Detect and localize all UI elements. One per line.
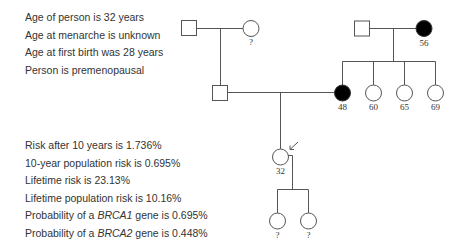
daughter-2-age: ? [307,230,311,240]
maternal-grandfather-square [355,21,370,36]
aunt-2-circle [397,85,413,101]
mother-age: 48 [338,102,348,112]
aunt-1-circle [366,85,382,101]
paternal-grandmother-age: ? [249,37,253,47]
proband-circle [273,149,289,165]
pedigree-chart: ? 56 48 60 65 69 32 ? ? [0,0,461,249]
aunt-2-age: 65 [400,102,410,112]
maternal-grandmother-age: 56 [420,38,430,48]
daughter-2-circle [301,213,317,229]
maternal-grandmother-affected-circle [416,21,432,37]
daughter-1-circle [270,213,286,229]
aunt-3-age: 69 [431,102,441,112]
aunt-1-age: 60 [369,102,379,112]
paternal-grandfather-square [182,21,197,36]
daughter-1-age: ? [276,230,280,240]
father-square [213,86,228,101]
aunt-3-circle [428,85,444,101]
paternal-grandmother-circle [243,21,259,37]
mother-affected-circle [335,85,351,101]
proband-age: 32 [276,166,285,176]
pedigree-lines [197,29,436,214]
proband-arrow-icon [290,142,298,150]
